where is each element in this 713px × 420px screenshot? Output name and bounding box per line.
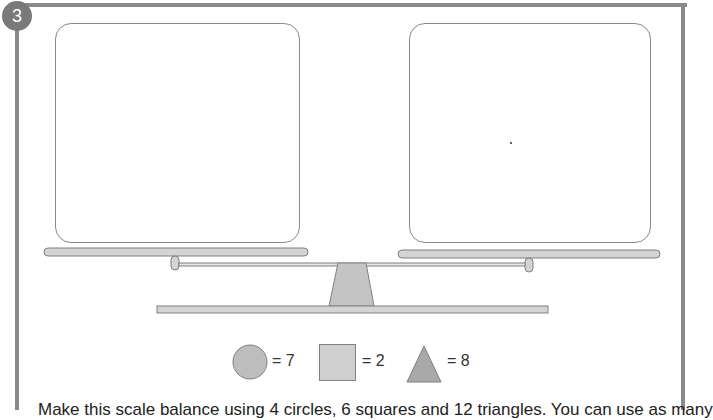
triangle-icon (406, 345, 444, 383)
square-value: = 2 (362, 352, 385, 370)
instruction-text: Make this scale balance using 4 circles,… (38, 400, 713, 420)
triangle-value: = 8 (447, 352, 470, 370)
square-icon (319, 344, 357, 382)
circle-value: = 7 (272, 352, 295, 370)
circle-icon (232, 344, 268, 380)
balance-scale (0, 0, 687, 330)
